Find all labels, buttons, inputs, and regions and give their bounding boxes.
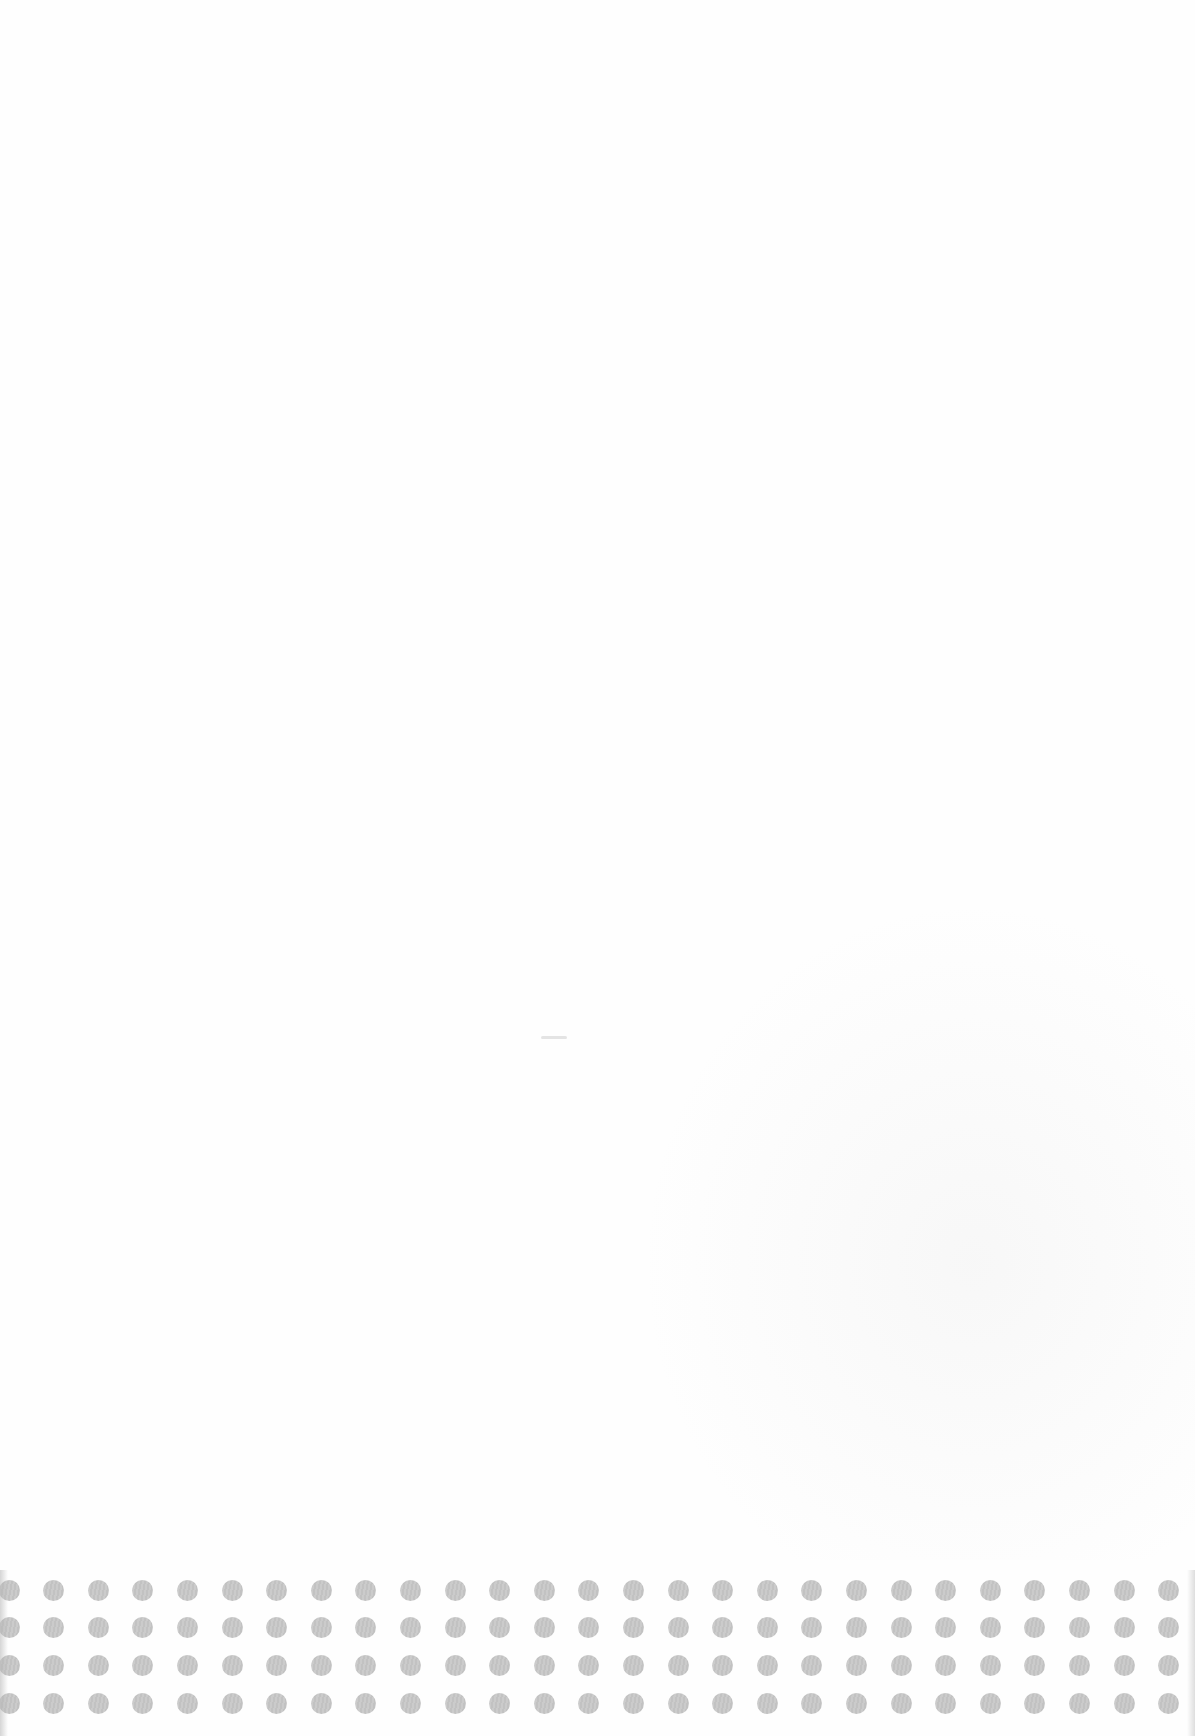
grid-dot bbox=[400, 1617, 421, 1638]
grid-dot bbox=[445, 1580, 466, 1601]
grid-dot bbox=[88, 1655, 109, 1676]
grid-dot bbox=[935, 1617, 956, 1638]
grid-dot bbox=[177, 1580, 198, 1601]
document-page bbox=[0, 0, 1195, 1736]
grid-dot bbox=[311, 1617, 332, 1638]
grid-dot bbox=[489, 1655, 510, 1676]
grid-dot bbox=[1024, 1617, 1045, 1638]
grid-dot bbox=[177, 1693, 198, 1714]
grid-dot bbox=[222, 1693, 243, 1714]
grid-dot bbox=[1024, 1693, 1045, 1714]
grid-dot bbox=[712, 1617, 733, 1638]
grid-dot bbox=[578, 1580, 599, 1601]
grid-dot bbox=[623, 1655, 644, 1676]
grid-dot bbox=[935, 1655, 956, 1676]
grid-dot bbox=[266, 1580, 287, 1601]
grid-dot bbox=[668, 1617, 689, 1638]
grid-dot bbox=[222, 1580, 243, 1601]
grid-dot bbox=[222, 1655, 243, 1676]
grid-dot bbox=[846, 1693, 867, 1714]
grid-dot bbox=[534, 1617, 555, 1638]
grid-dot bbox=[534, 1580, 555, 1601]
grid-dot bbox=[132, 1655, 153, 1676]
grid-dot bbox=[489, 1693, 510, 1714]
grid-dot bbox=[1114, 1617, 1135, 1638]
grid-dot bbox=[980, 1655, 1001, 1676]
grid-dot bbox=[623, 1617, 644, 1638]
grid-dot bbox=[891, 1693, 912, 1714]
grid-dot bbox=[1158, 1693, 1179, 1714]
grid-dot bbox=[400, 1693, 421, 1714]
grid-dot bbox=[668, 1655, 689, 1676]
grid-dot bbox=[177, 1617, 198, 1638]
grid-dot bbox=[801, 1655, 822, 1676]
grid-dot bbox=[445, 1693, 466, 1714]
grid-dot bbox=[43, 1580, 64, 1601]
grid-dot bbox=[935, 1580, 956, 1601]
grid-dot bbox=[757, 1617, 778, 1638]
grid-dot bbox=[132, 1580, 153, 1601]
grid-dot bbox=[1069, 1580, 1090, 1601]
grid-dot bbox=[311, 1693, 332, 1714]
grid-dot bbox=[489, 1617, 510, 1638]
grid-dot bbox=[801, 1693, 822, 1714]
grid-dot bbox=[355, 1617, 376, 1638]
grid-dot bbox=[355, 1655, 376, 1676]
grid-dot bbox=[757, 1693, 778, 1714]
grid-dot bbox=[355, 1580, 376, 1601]
grid-dot bbox=[891, 1617, 912, 1638]
grid-dot bbox=[355, 1693, 376, 1714]
grid-dot bbox=[1069, 1617, 1090, 1638]
grid-dot bbox=[935, 1693, 956, 1714]
grid-dot bbox=[891, 1655, 912, 1676]
grid-dot bbox=[1158, 1655, 1179, 1676]
grid-dot bbox=[266, 1693, 287, 1714]
grid-dot bbox=[846, 1580, 867, 1601]
left-page-edge-shadow bbox=[0, 1570, 8, 1736]
grid-dot bbox=[712, 1693, 733, 1714]
grid-dot bbox=[400, 1580, 421, 1601]
grid-dot bbox=[712, 1580, 733, 1601]
grid-dot bbox=[43, 1693, 64, 1714]
grid-dot bbox=[445, 1617, 466, 1638]
right-page-edge-shadow bbox=[1187, 1570, 1195, 1736]
grid-dot bbox=[980, 1617, 1001, 1638]
grid-dot bbox=[801, 1617, 822, 1638]
grid-dot bbox=[712, 1655, 733, 1676]
grid-dot bbox=[1158, 1617, 1179, 1638]
grid-dot bbox=[1024, 1580, 1045, 1601]
grid-dot bbox=[132, 1617, 153, 1638]
grid-dot bbox=[1114, 1693, 1135, 1714]
grid-dot bbox=[578, 1617, 599, 1638]
grid-dot bbox=[400, 1655, 421, 1676]
grid-dot bbox=[623, 1693, 644, 1714]
grid-dot bbox=[1069, 1693, 1090, 1714]
grid-dot bbox=[88, 1580, 109, 1601]
grid-dot bbox=[311, 1580, 332, 1601]
grid-dot bbox=[266, 1655, 287, 1676]
grid-dot bbox=[222, 1617, 243, 1638]
grid-dot bbox=[132, 1693, 153, 1714]
grid-dot bbox=[757, 1580, 778, 1601]
grid-dot bbox=[445, 1655, 466, 1676]
grid-dot bbox=[1069, 1655, 1090, 1676]
grid-dot bbox=[88, 1693, 109, 1714]
grid-dot bbox=[668, 1693, 689, 1714]
grid-dot bbox=[266, 1617, 287, 1638]
grid-dot bbox=[311, 1655, 332, 1676]
grid-dot bbox=[757, 1655, 778, 1676]
grid-dot bbox=[1114, 1655, 1135, 1676]
grid-dot bbox=[534, 1655, 555, 1676]
grid-dot bbox=[177, 1655, 198, 1676]
grid-dot bbox=[1024, 1655, 1045, 1676]
grid-dot bbox=[623, 1580, 644, 1601]
grid-dot bbox=[1114, 1580, 1135, 1601]
grid-dot bbox=[846, 1655, 867, 1676]
grid-dot bbox=[846, 1617, 867, 1638]
grid-dot bbox=[578, 1655, 599, 1676]
grid-dot bbox=[980, 1693, 1001, 1714]
grid-dot bbox=[88, 1617, 109, 1638]
grid-dot bbox=[489, 1580, 510, 1601]
decorative-dot-grid bbox=[0, 0, 1195, 1736]
grid-dot bbox=[980, 1580, 1001, 1601]
